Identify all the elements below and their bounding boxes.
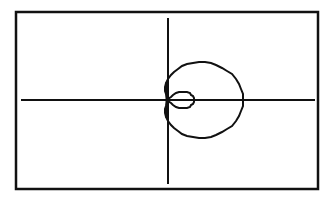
calculator-graph-screen — [0, 0, 336, 201]
graph-plot — [0, 0, 336, 201]
